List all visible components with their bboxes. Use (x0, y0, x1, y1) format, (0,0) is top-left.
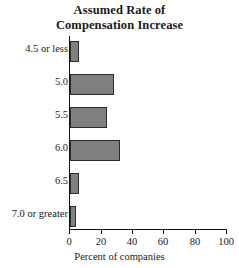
y-axis-label-4: 6.5 (0, 175, 68, 187)
bar-4-5-or-less[interactable] (70, 41, 79, 62)
y-axis-label-0: 4.5 or less (0, 43, 68, 55)
bar-6-0[interactable] (70, 140, 120, 161)
y-axis-line (69, 36, 70, 229)
bar-5-0[interactable] (70, 74, 114, 95)
x-tick-5 (226, 229, 227, 234)
x-axis-title: Percent of companies (0, 251, 239, 263)
chart-title: Assumed Rate of Compensation Increase (0, 3, 239, 32)
x-axis-line (69, 229, 227, 230)
chart-title-line-1: Assumed Rate of (0, 3, 239, 18)
x-tick-3 (163, 229, 164, 234)
bar-7-0-or-greater[interactable] (70, 206, 76, 227)
x-tick-1 (101, 229, 102, 234)
x-tick-label-5: 100 (206, 236, 239, 248)
bar-5-5[interactable] (70, 107, 107, 128)
bar-6-5[interactable] (70, 173, 79, 194)
plot-area: 0 20 40 60 80 100 (70, 36, 226, 229)
y-axis-label-3: 6.0 (0, 142, 68, 154)
x-tick-2 (132, 229, 133, 234)
y-axis-label-2: 5.5 (0, 109, 68, 121)
x-tick-0 (69, 229, 70, 234)
y-axis-label-5: 7.0 or greater (0, 208, 68, 220)
x-tick-4 (195, 229, 196, 234)
bar-chart-figure: Assumed Rate of Compensation Increase 4.… (0, 0, 239, 268)
chart-title-line-2: Compensation Increase (0, 18, 239, 33)
y-axis-label-1: 5.0 (0, 76, 68, 88)
